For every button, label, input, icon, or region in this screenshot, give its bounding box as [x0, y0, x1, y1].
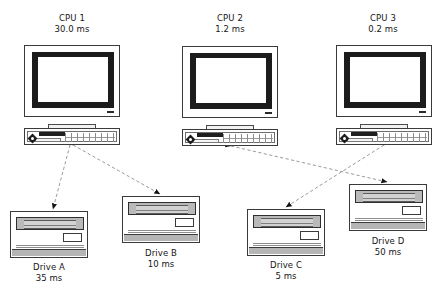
driveC-label: Drive C 5 ms	[241, 260, 331, 281]
cpu1-bezel	[32, 52, 114, 108]
cpu1-keyboard	[24, 128, 120, 145]
driveA-slot	[16, 217, 84, 230]
cpu3-keyboard-bar	[351, 132, 377, 136]
cpu1-monitor	[24, 45, 120, 117]
driveB-slot-inner	[136, 205, 188, 214]
cpu1-power-led-icon	[107, 111, 114, 113]
driveA-base	[12, 249, 86, 256]
cpu2-keyboard-bar	[197, 133, 223, 137]
cpu3-keys	[377, 133, 427, 143]
cpu2-name: CPU 2	[185, 13, 275, 24]
cpu1-screen	[38, 57, 108, 102]
driveA-label-plate	[63, 233, 82, 242]
cpu3-keyboard	[336, 128, 432, 145]
driveC-slot-line	[261, 223, 313, 224]
driveC-time: 5 ms	[241, 271, 331, 282]
cpu3-bezel	[344, 52, 426, 108]
driveC-body	[247, 209, 325, 256]
cpu3-power-led-icon	[419, 111, 426, 113]
cpu3-name: CPU 3	[338, 13, 428, 24]
cpu2-power-led-icon	[265, 112, 272, 114]
connection-cpu2-driveD	[231, 146, 387, 182]
driveA-slot-line	[24, 225, 76, 226]
cpu1-time: 30.0 ms	[27, 24, 117, 35]
driveD-label: Drive D 50 ms	[343, 236, 433, 257]
cpu1-power-knob-center-icon	[31, 137, 35, 141]
cpu3-label: CPU 3 0.2 ms	[338, 13, 428, 34]
driveB-slot-line	[136, 210, 188, 211]
cpu3-screen	[350, 57, 420, 102]
cpu1-drive-slot-icon	[35, 138, 61, 142]
driveA-slot-inner	[24, 220, 76, 229]
driveC-base	[249, 247, 323, 254]
diagram-canvas: CPU 1 30.0 ms CPU 2 1.2 ms	[0, 0, 442, 294]
cpu2-bezel	[190, 53, 272, 109]
cpu2-monitor	[182, 46, 278, 118]
cpu3-power-knob-center-icon	[343, 137, 347, 141]
cpu3-monitor	[336, 45, 432, 117]
cpu2-drive-slot-icon	[193, 139, 219, 143]
driveB-slot	[128, 202, 196, 215]
cpu3-time: 0.2 ms	[338, 24, 428, 35]
driveB-label-plate	[175, 218, 194, 227]
cpu3-drive-slot-icon	[347, 138, 373, 142]
driveB-time: 10 ms	[116, 259, 206, 270]
cpu2-keys	[223, 134, 273, 144]
driveD-time: 50 ms	[343, 247, 433, 258]
cpu2-time: 1.2 ms	[185, 24, 275, 35]
driveA-body	[10, 211, 88, 258]
driveC-slot-inner	[261, 218, 313, 227]
driveC-name: Drive C	[241, 260, 331, 271]
driveA-time: 35 ms	[4, 273, 94, 284]
driveC-slot	[253, 215, 321, 228]
cpu2-keyboard	[182, 129, 278, 146]
cpu1-keys	[65, 133, 115, 143]
driveB-name: Drive B	[116, 248, 206, 259]
driveD-base	[351, 222, 425, 229]
driveC-label-plate	[300, 231, 319, 240]
cpu1-keyboard-bar	[39, 132, 65, 136]
cpu2-power-knob-center-icon	[189, 138, 193, 142]
cpu2-screen	[196, 58, 266, 103]
connection-cpu1-driveB	[73, 145, 160, 194]
driveD-slot-line	[363, 198, 415, 199]
driveD-name: Drive D	[343, 236, 433, 247]
connection-cpu1-driveA	[53, 145, 70, 209]
driveD-slot-inner	[363, 193, 415, 202]
cpu1-label: CPU 1 30.0 ms	[27, 13, 117, 34]
driveA-name: Drive A	[4, 262, 94, 273]
driveD-slot	[355, 190, 423, 203]
driveA-label: Drive A 35 ms	[4, 262, 94, 283]
driveD-label-plate	[402, 206, 421, 215]
cpu2-label: CPU 2 1.2 ms	[185, 13, 275, 34]
driveB-body	[122, 196, 200, 243]
driveB-label: Drive B 10 ms	[116, 248, 206, 269]
cpu1-name: CPU 1	[27, 13, 117, 24]
driveD-body	[349, 184, 427, 231]
driveB-base	[124, 234, 198, 241]
